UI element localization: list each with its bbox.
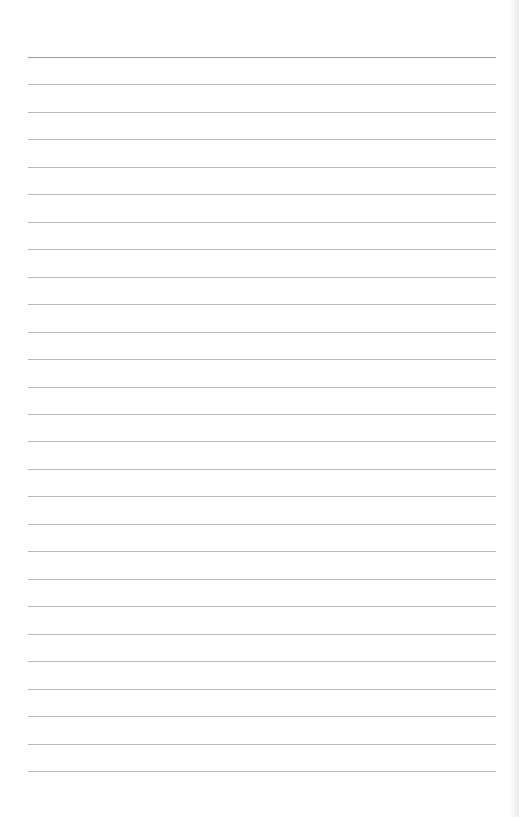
ruled-line bbox=[28, 112, 496, 113]
lined-paper-page bbox=[0, 0, 519, 817]
ruled-line bbox=[28, 496, 496, 497]
page-edge-shadow bbox=[509, 0, 519, 817]
ruled-line bbox=[28, 441, 496, 442]
ruled-line bbox=[28, 579, 496, 580]
ruled-line bbox=[28, 167, 496, 168]
ruled-line bbox=[28, 277, 496, 278]
ruled-line bbox=[28, 139, 496, 140]
ruled-line bbox=[28, 716, 496, 717]
ruled-line bbox=[28, 524, 496, 525]
ruled-line bbox=[28, 84, 496, 85]
ruled-line bbox=[28, 194, 496, 195]
ruled-line bbox=[28, 414, 496, 415]
ruled-line bbox=[28, 661, 496, 662]
ruled-line bbox=[28, 249, 496, 250]
ruled-line bbox=[28, 359, 496, 360]
ruled-line bbox=[28, 744, 496, 745]
ruled-line bbox=[28, 57, 496, 58]
ruled-line bbox=[28, 387, 496, 388]
ruled-line bbox=[28, 469, 496, 470]
ruled-line bbox=[28, 551, 496, 552]
ruled-line bbox=[28, 304, 496, 305]
ruled-line bbox=[28, 634, 496, 635]
ruled-line bbox=[28, 689, 496, 690]
ruled-line bbox=[28, 332, 496, 333]
ruled-line bbox=[28, 606, 496, 607]
ruled-line bbox=[28, 222, 496, 223]
ruled-line bbox=[28, 771, 496, 772]
